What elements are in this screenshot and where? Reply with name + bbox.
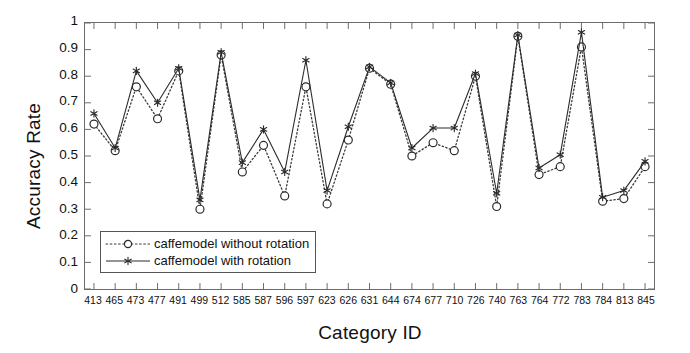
y-tick-label: 0.1 — [34, 254, 78, 269]
x-tick-label: 585 — [233, 294, 251, 306]
data-point-marker — [303, 57, 309, 64]
x-tick-label: 477 — [148, 294, 166, 306]
data-point-marker — [302, 83, 310, 91]
data-point-marker — [345, 123, 351, 130]
y-tick-label: 0.7 — [34, 93, 78, 108]
y-tick-label: 0.6 — [34, 120, 78, 135]
x-tick-label: 764 — [531, 294, 549, 306]
data-series-group — [90, 29, 649, 213]
y-tick-label: 0.9 — [34, 40, 78, 55]
x-tick-label: 413 — [84, 294, 102, 306]
data-point-marker — [344, 136, 352, 144]
x-tick-label: 465 — [106, 294, 124, 306]
data-point-marker — [429, 139, 437, 147]
x-tick-label: 644 — [382, 294, 400, 306]
x-tick-label: 623 — [318, 294, 336, 306]
x-tick-label: 499 — [191, 294, 209, 306]
y-tick-label: 0.2 — [34, 227, 78, 242]
legend-item-with-rotation: caffemodel with rotation — [105, 252, 309, 269]
y-tick-label: 1 — [34, 13, 78, 28]
chart-figure: Accuracy Rate 00.10.20.30.40.50.60.70.80… — [0, 0, 690, 353]
x-tick-label: 813 — [616, 294, 634, 306]
y-tick-label: 0 — [34, 281, 78, 296]
y-axis-label: Accuracy Rate — [23, 46, 45, 286]
x-tick-label: 783 — [573, 294, 591, 306]
x-tick-label: 740 — [488, 294, 506, 306]
x-tick-label: 710 — [446, 294, 464, 306]
data-point-marker — [132, 83, 140, 91]
x-tick-label: 677 — [425, 294, 443, 306]
x-tick-label: 784 — [595, 294, 613, 306]
x-tick-label: 512 — [212, 294, 230, 306]
x-tick-label: 631 — [361, 294, 379, 306]
series-with-rotation — [91, 29, 648, 204]
data-point-marker — [578, 29, 584, 36]
y-tick-label: 0.3 — [34, 201, 78, 216]
data-point-marker — [196, 205, 204, 213]
data-point-marker — [90, 120, 98, 128]
data-point-marker — [536, 164, 542, 171]
x-tick-label: 845 — [637, 294, 655, 306]
data-point-marker — [556, 163, 564, 171]
y-tick-label: 0.5 — [34, 147, 78, 162]
data-point-marker — [620, 195, 628, 203]
legend-item-without-rotation: caffemodel without rotation — [105, 235, 309, 252]
data-point-marker — [493, 203, 501, 211]
series-line — [94, 36, 645, 209]
chart-legend: caffemodel without rotation caffemodel w… — [100, 231, 316, 273]
x-tick-label: 674 — [403, 294, 421, 306]
series-line — [94, 32, 645, 200]
data-point-marker — [408, 152, 416, 160]
y-tick-label: 0.4 — [34, 174, 78, 189]
data-point-marker — [281, 192, 289, 200]
data-point-marker — [450, 147, 458, 155]
x-tick-label: 626 — [339, 294, 357, 306]
x-axis-label: Category ID — [84, 322, 656, 344]
x-tick-label: 491 — [169, 294, 187, 306]
x-tick-label: 772 — [552, 294, 570, 306]
x-tick-label: 473 — [127, 294, 145, 306]
data-point-marker — [154, 115, 162, 123]
x-tick-label: 587 — [254, 294, 272, 306]
legend-label-with-rotation: caffemodel with rotation — [151, 253, 291, 268]
x-tick-label: 597 — [297, 294, 315, 306]
data-point-marker — [91, 110, 97, 117]
legend-marker-circle-dotted — [105, 237, 151, 251]
legend-marker-asterisk-solid — [105, 254, 151, 268]
x-tick-label: 596 — [276, 294, 294, 306]
legend-label-without-rotation: caffemodel without rotation — [151, 236, 309, 251]
series-without-rotation — [90, 32, 649, 213]
x-tick-label: 726 — [467, 294, 485, 306]
data-point-marker — [260, 141, 268, 149]
x-tick-label: 763 — [510, 294, 528, 306]
data-point-marker — [323, 200, 331, 208]
y-tick-label: 0.8 — [34, 67, 78, 82]
data-point-marker — [238, 168, 246, 176]
data-point-marker — [282, 168, 288, 175]
